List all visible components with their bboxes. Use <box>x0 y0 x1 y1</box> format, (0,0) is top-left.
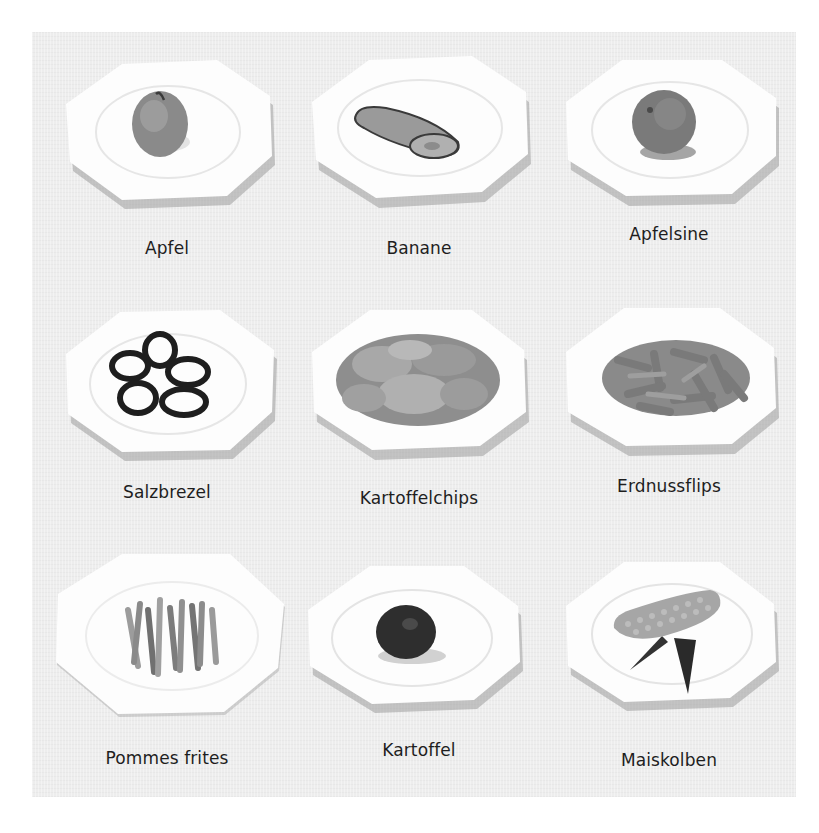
food-label: Salzbrezel <box>42 482 292 502</box>
food-label: Erdnussflips <box>544 476 794 496</box>
plate <box>42 44 292 234</box>
plate <box>42 294 292 484</box>
food-label: Maiskolben <box>544 750 794 770</box>
food-card-french-fries: Pommes frites <box>42 544 292 794</box>
food-label: Kartoffel <box>294 740 544 760</box>
food-card-potato: Kartoffel <box>294 544 544 794</box>
food-label: Pommes frites <box>42 748 292 768</box>
food-card-pretzel: Salzbrezel <box>42 294 292 544</box>
plate <box>544 294 794 484</box>
food-card-corn-cob: Maiskolben <box>544 544 794 794</box>
food-label: Kartoffelchips <box>294 488 544 508</box>
plate <box>42 544 292 734</box>
peanut-flips-icon <box>602 340 750 416</box>
food-card-orange: Apfelsine <box>544 44 794 294</box>
food-grid-panel: Apfel Banane <box>32 32 796 797</box>
plate <box>294 294 544 484</box>
orange-icon <box>632 90 696 160</box>
food-label: Banane <box>294 238 544 258</box>
food-label: Apfelsine <box>544 224 794 244</box>
food-label: Apfel <box>42 238 292 258</box>
plate <box>544 544 794 734</box>
plate <box>294 544 544 734</box>
food-card-potato-chips: Kartoffelchips <box>294 294 544 544</box>
food-card-apple: Apfel <box>42 44 292 294</box>
food-card-banana: Banane <box>294 42 544 292</box>
plate <box>544 44 794 234</box>
food-card-peanut-flips: Erdnussflips <box>544 294 794 544</box>
plate <box>294 42 544 232</box>
potato-chips-icon <box>336 334 500 426</box>
